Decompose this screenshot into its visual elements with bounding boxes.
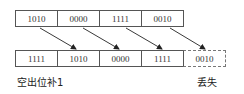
fill-label: 空出位补1	[17, 74, 63, 89]
bottom-cell-3: 1111	[141, 50, 184, 67]
top-row: 1010 0000 1111 0010	[15, 10, 184, 27]
top-cell-2: 1111	[99, 10, 142, 27]
bottom-row: 1111 1010 0000 1111 0010	[15, 50, 226, 67]
top-cell-1: 0000	[57, 10, 100, 27]
bottom-cell-lost: 0010	[183, 50, 226, 67]
top-cell-3: 0010	[141, 10, 184, 27]
bottom-cell-0: 1111	[15, 50, 58, 67]
lost-label: 丢失	[197, 74, 217, 89]
bottom-cell-2: 0000	[99, 50, 142, 67]
arrow-icon	[40, 28, 205, 49]
bottom-cell-1: 1010	[57, 50, 100, 67]
top-cell-0: 1010	[15, 10, 58, 27]
